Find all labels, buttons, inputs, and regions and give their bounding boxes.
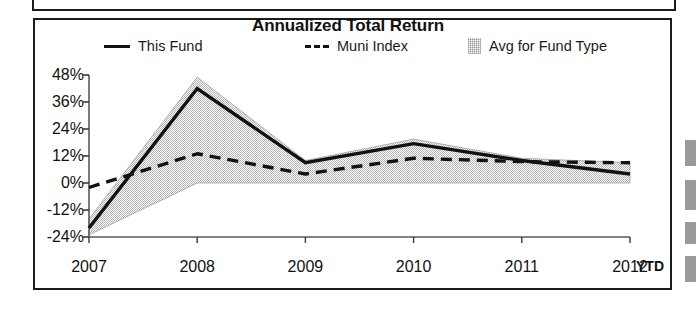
screenshot-page: Annualized Total Return This Fund Muni I… [0, 0, 696, 315]
y-tick-label: 12% [22, 147, 84, 165]
legend-label-avg-fund-type: Avg for Fund Type [489, 38, 607, 54]
y-tick-label: 36% [22, 93, 84, 111]
x-tick-label: 2007 [71, 258, 107, 276]
x-tick-label: 2010 [396, 258, 432, 276]
scan-edge-artifacts [684, 140, 696, 300]
shaded-band-swatch-icon [468, 38, 481, 54]
legend-label-muni-index: Muni Index [337, 38, 408, 54]
dashed-line-swatch-icon [305, 45, 329, 48]
legend-item-this-fund: This Fund [104, 38, 202, 54]
y-tick-label: -12% [22, 201, 84, 219]
x-tick-label: 2008 [179, 258, 215, 276]
y-tick-label: 48% [22, 66, 84, 84]
y-tick-label: 0% [22, 174, 84, 192]
x-axis-ytd-label: YTD [636, 258, 664, 274]
x-tick-label: 2009 [288, 258, 324, 276]
x-tick-label: 2011 [505, 258, 539, 276]
chart-legend: This Fund Muni Index Avg for Fund Type [0, 38, 696, 60]
legend-label-this-fund: This Fund [138, 38, 202, 54]
adjacent-panel-bottom-edge [32, 0, 676, 11]
chart-title: Annualized Total Return [0, 16, 696, 36]
legend-item-muni-index: Muni Index [305, 38, 408, 54]
y-tick-label: 24% [22, 120, 84, 138]
solid-line-swatch-icon [104, 45, 130, 48]
legend-item-avg-fund-type: Avg for Fund Type [468, 38, 607, 54]
y-tick-label: -24% [22, 228, 84, 246]
